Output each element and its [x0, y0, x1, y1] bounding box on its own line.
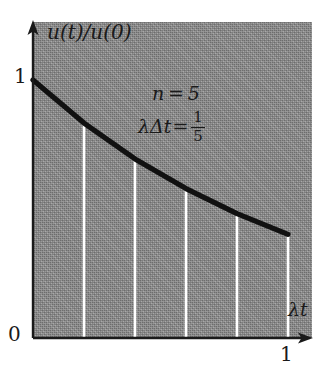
- origin-label: 0: [8, 324, 21, 344]
- parameter-annotation: n = 5 λΔt=15: [138, 84, 205, 144]
- fraction-numerator: 1: [191, 110, 205, 126]
- x-axis-label: λt: [288, 300, 308, 319]
- plot-overlay: [0, 0, 332, 382]
- annotation-fraction: 15: [191, 110, 205, 145]
- fraction-denominator: 5: [191, 129, 205, 145]
- y-tick-label-1: 1: [14, 66, 27, 86]
- annotation-lambda-dt: λΔt=15: [138, 110, 205, 145]
- x-tick-label-1: 1: [280, 344, 293, 364]
- y-axis-label: u(t)/u(0): [47, 22, 131, 42]
- annotation-n-value: n = 5: [152, 84, 205, 104]
- decay-curve-figure: u(t)/u(0) λt 1 0 1 n = 5 λΔt=15: [0, 0, 332, 382]
- annotation-equals: =: [172, 115, 188, 137]
- dropline-group: [84, 123, 288, 338]
- annotation-lhs: λΔt: [138, 115, 171, 137]
